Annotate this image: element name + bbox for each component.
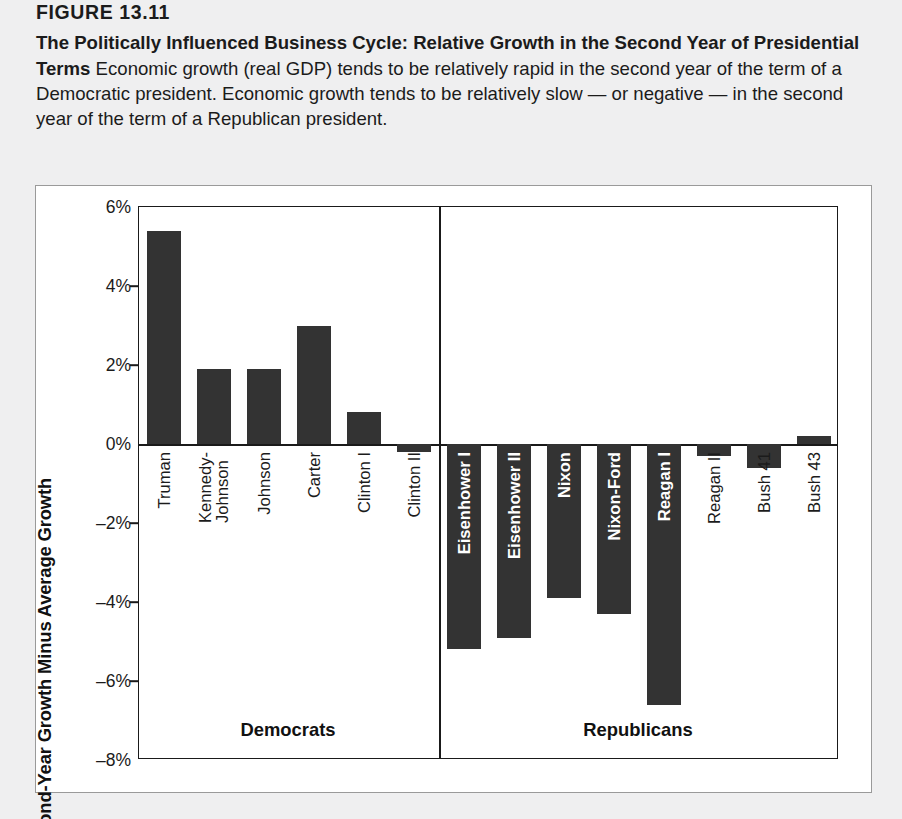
bar-label-kennedy-johnson: Kennedy-Johnson <box>198 452 232 523</box>
bar-carter <box>297 326 331 445</box>
bar-label-line: Bush 41 <box>757 452 774 513</box>
zero-baseline <box>139 444 837 446</box>
bar-kennedy-johnson <box>197 369 231 444</box>
group-label-democrats: Democrats <box>168 719 408 741</box>
y-axis-tick-mark <box>130 601 139 603</box>
bar-label-line: Truman <box>157 452 174 509</box>
bar-label-nixon: Nixon <box>557 452 574 498</box>
caption-body: Economic growth (real GDP) tends to be r… <box>36 58 843 129</box>
bar-clinton-i <box>347 412 381 444</box>
y-axis-tick-mark <box>130 285 139 287</box>
bar-label-line: Eisenhower I <box>457 452 474 554</box>
y-axis-tick-label: –8% <box>75 750 131 771</box>
bar-label-line: Bush 43 <box>807 452 824 513</box>
party-divider <box>439 207 441 758</box>
y-axis-tick-mark <box>130 364 139 366</box>
bar-label-line: Johnson <box>257 452 274 515</box>
bar-label-line: Reagan I <box>657 452 674 521</box>
y-axis-tick-label: 4% <box>75 276 131 297</box>
bar-label-eisenhower-ii: Eisenhower II <box>507 452 524 559</box>
bar-label-johnson: Johnson <box>257 452 274 515</box>
bar-label-clinton-i: Clinton I <box>357 452 374 513</box>
bar-label-line: Nixon-Ford <box>607 452 624 541</box>
y-axis-tick-label: 6% <box>75 197 131 218</box>
bar-label-reagan-ii: Reagan II <box>707 452 724 524</box>
figure-caption-block: FIGURE 13.11 The Politically Influenced … <box>36 2 876 131</box>
y-axis-tick-label: –6% <box>75 671 131 692</box>
y-axis-tick-mark <box>130 522 139 524</box>
y-axis-tick-label: 2% <box>75 355 131 376</box>
bar-label-line: Carter <box>307 452 324 498</box>
bar-label-line: Eisenhower II <box>507 452 524 559</box>
bar-label-eisenhower-i: Eisenhower I <box>457 452 474 554</box>
figure-number: FIGURE 13.11 <box>36 2 876 23</box>
y-axis-title: Second-Year Growth Minus Average Growth <box>34 391 64 819</box>
bar-truman <box>147 231 181 444</box>
group-label-republicans: Republicans <box>518 719 758 741</box>
figure-panel: Second-Year Growth Minus Average Growth … <box>35 185 872 793</box>
y-axis-tick-label: –4% <box>75 592 131 613</box>
bar-label-line: Nixon <box>557 452 574 498</box>
bar-label-reagan-i: Reagan I <box>657 452 674 521</box>
bar-label-carter: Carter <box>307 452 324 498</box>
bar-label-clinton-ii: Clinton II <box>407 452 424 517</box>
figure-caption: The Politically Influenced Business Cycl… <box>36 30 866 131</box>
bar-label-line: Reagan II <box>707 452 724 524</box>
bar-label-nixon-ford: Nixon-Ford <box>607 452 624 541</box>
y-axis-tick-mark <box>130 680 139 682</box>
y-axis-tick-label: –2% <box>75 513 131 534</box>
bar-clinton-ii <box>397 444 431 452</box>
bar-johnson <box>247 369 281 444</box>
bar-bush-43 <box>797 436 831 444</box>
bar-label-bush-43: Bush 43 <box>807 452 824 513</box>
y-axis-tick-label: 0% <box>75 434 131 455</box>
bar-label-line: Clinton II <box>407 452 424 517</box>
bar-label-line: Clinton I <box>357 452 374 513</box>
bar-label-bush-41: Bush 41 <box>757 452 774 513</box>
bar-chart: Second-Year Growth Minus Average Growth … <box>36 186 873 794</box>
plot-frame: 6%4%2%0%–2%–4%–6%–8%TrumanKennedy-Johnso… <box>138 206 838 759</box>
bar-label-line: Johnson <box>215 452 232 523</box>
bar-label-truman: Truman <box>157 452 174 509</box>
